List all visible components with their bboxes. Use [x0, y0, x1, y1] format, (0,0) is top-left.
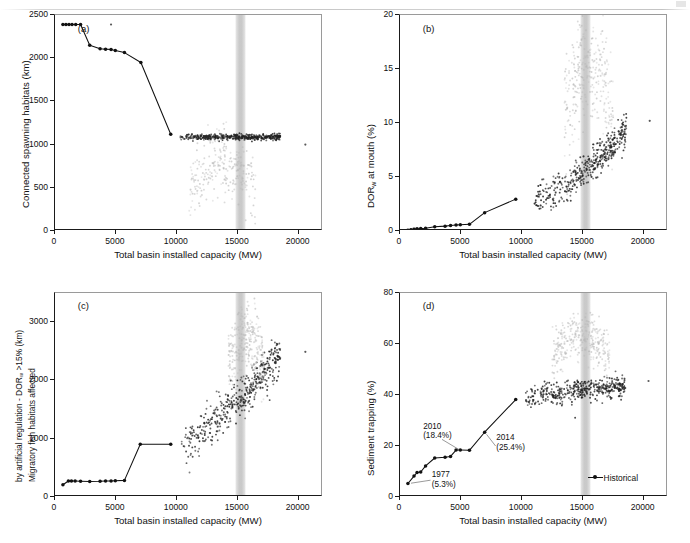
panel-c-plot-area: (c) [54, 292, 322, 496]
panel-c-y-axis-label-line1: Migratory fish habitats affected [27, 368, 37, 482]
panel-d-tag: (d) [423, 300, 435, 311]
annotation-2014: 2014 (25.4%) [496, 433, 525, 452]
x-tick [237, 496, 238, 500]
x-tick-label: 5000 [105, 236, 124, 246]
panel-d-x-axis-label: Total basin installed capacity (MW) [459, 515, 607, 526]
panel-c-y-label-base: by artificial regulation - DOR [14, 377, 24, 482]
x-tick-label: 5000 [450, 502, 469, 512]
panel-a: Connected spawning habitats (km) (a) Tot… [8, 14, 328, 272]
panel-c-y-axis-label-line2: by artificial regulation - DORw >15% (km… [14, 330, 24, 482]
y-tick [395, 445, 399, 446]
scan-corner-mark [676, 1, 686, 7]
x-tick-label: 20000 [631, 502, 655, 512]
panel-b-y-label-subscript: w [370, 182, 377, 187]
y-tick-label: 500 [14, 182, 48, 192]
panel-b-plot-area: (b) [399, 14, 667, 230]
legend-line-marker-icon [588, 474, 603, 481]
y-tick [50, 321, 54, 322]
y-tick [50, 100, 54, 101]
y-tick [395, 122, 399, 123]
y-tick-label: 0 [359, 225, 393, 235]
y-tick [50, 496, 54, 497]
y-tick-label: 10 [359, 117, 393, 127]
panel-b-x-axis-label: Total basin installed capacity (MW) [459, 249, 607, 260]
y-tick [395, 292, 399, 293]
annotation-1977-label: 1977 [432, 470, 450, 479]
x-tick-label: 15000 [225, 236, 249, 246]
x-tick-label: 10000 [164, 236, 188, 246]
x-tick [115, 496, 116, 500]
x-tick [399, 496, 400, 500]
panel-b-tag: (b) [423, 23, 435, 34]
y-tick-label: 60 [359, 338, 393, 348]
x-tick-label: 10000 [164, 502, 188, 512]
annotation-2010-label: 2010 [423, 422, 441, 431]
panel-c-x-axis-label: Total basin installed capacity (MW) [114, 515, 262, 526]
y-tick [50, 144, 54, 145]
x-tick-label: 20000 [631, 236, 655, 246]
x-tick-label: 15000 [225, 502, 249, 512]
panel-c-y-label-rest: >15% (km) [14, 330, 24, 373]
y-tick-label: 40 [359, 389, 393, 399]
panel-a-data-layer [55, 15, 322, 230]
panel-b: DORw at mouth (%) (b) Total basin instal… [353, 14, 673, 272]
y-tick [50, 57, 54, 58]
x-tick-label: 5000 [105, 502, 124, 512]
x-tick [176, 496, 177, 500]
y-tick [50, 14, 54, 15]
x-tick-label: 0 [397, 236, 402, 246]
x-tick-label: 15000 [570, 502, 594, 512]
y-tick-label: 0 [14, 225, 48, 235]
y-tick-label: 5 [359, 171, 393, 181]
panel-d-plot-area: (d) 1977 (5.3%) 2010 (18.4%) 2014 (25.4%… [399, 292, 667, 496]
y-tick [395, 394, 399, 395]
y-tick-label: 2000 [14, 374, 48, 384]
y-tick [395, 230, 399, 231]
y-tick [50, 187, 54, 188]
y-tick-label: 2500 [14, 9, 48, 19]
x-tick [582, 496, 583, 500]
x-tick-label: 0 [397, 502, 402, 512]
panel-d-data-layer [400, 293, 667, 496]
x-tick [176, 230, 177, 234]
y-tick [50, 230, 54, 231]
panel-b-y-axis-label: DORw at mouth (%) [365, 124, 377, 208]
x-tick [521, 496, 522, 500]
x-tick-label: 0 [52, 502, 57, 512]
x-tick [54, 496, 55, 500]
x-tick-label: 20000 [286, 236, 310, 246]
x-tick [298, 496, 299, 500]
x-tick-label: 5000 [450, 236, 469, 246]
x-tick [115, 230, 116, 234]
x-tick [54, 230, 55, 234]
x-tick [237, 230, 238, 234]
y-tick-label: 15 [359, 63, 393, 73]
scan-artifact-line [0, 9, 690, 10]
y-tick-label: 1000 [14, 139, 48, 149]
x-tick [521, 230, 522, 234]
x-tick [298, 230, 299, 234]
panel-b-data-layer [400, 15, 667, 230]
annotation-2010-value: (18.4%) [423, 431, 452, 440]
figure-canvas: Connected spawning habitats (km) (a) Tot… [0, 0, 690, 543]
panel-c: Migratory fish habitats affected by arti… [8, 292, 328, 538]
y-tick [50, 438, 54, 439]
x-tick [399, 230, 400, 234]
y-tick-label: 0 [14, 491, 48, 501]
x-tick [582, 230, 583, 234]
x-tick-label: 10000 [509, 236, 533, 246]
y-tick-label: 20 [359, 440, 393, 450]
x-tick [643, 230, 644, 234]
y-tick [395, 68, 399, 69]
x-tick [460, 496, 461, 500]
annotation-1977-value: (5.3%) [432, 480, 456, 489]
x-tick [460, 230, 461, 234]
y-tick [395, 14, 399, 15]
y-tick-label: 3000 [14, 316, 48, 326]
panel-c-data-layer [55, 293, 322, 496]
annotation-2010: 2010 (18.4%) [423, 422, 452, 441]
y-tick [395, 343, 399, 344]
panel-d: Sediment trapping (%) (d) 1977 (5.3%) 20… [353, 292, 673, 538]
x-tick [643, 496, 644, 500]
annotation-1977: 1977 (5.3%) [432, 470, 456, 489]
